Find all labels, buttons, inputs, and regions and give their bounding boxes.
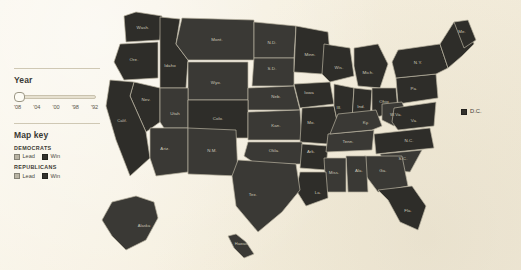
state-label-ill: Ill. xyxy=(337,105,342,110)
state-shape-wisconsin xyxy=(322,44,354,82)
swatch-lead-icon xyxy=(14,173,20,179)
map-key-row-democrats: Lead Win xyxy=(14,154,100,160)
year-tick-1[interactable]: '04 xyxy=(33,105,40,111)
state-label-nev: Nev. xyxy=(141,97,150,102)
control-panel: Year '08 '04 '00 '98 '92 Map key DEMOCRA… xyxy=(14,68,100,184)
state-label-tex: Tex. xyxy=(249,192,257,197)
state-label-neb: Neb. xyxy=(271,94,281,99)
state-label-idaho: Idaho xyxy=(164,63,176,68)
state-label-me: Me. xyxy=(458,29,466,34)
state-shape-arizona xyxy=(150,128,188,176)
state-label-mich: Mich. xyxy=(363,70,374,75)
map-key-group-republicans: REPUBLICANS Lead Win xyxy=(14,165,100,179)
year-control-title: Year xyxy=(14,76,100,85)
state-label-wash: Wash. xyxy=(137,25,150,30)
map-key-label-democrats-lead: Lead xyxy=(23,154,35,160)
state-label-ore: Ore. xyxy=(130,57,139,62)
state-label-ohio: Ohio xyxy=(379,99,389,104)
year-slider[interactable] xyxy=(14,91,96,103)
map-key-heading-democrats: DEMOCRATS xyxy=(14,146,100,151)
dc-label: D.C. xyxy=(470,109,482,115)
state-shape-alabama xyxy=(346,156,368,192)
dc-swatch-icon xyxy=(461,109,467,115)
state-label-minn: Minn. xyxy=(304,52,315,57)
state-shape-iowa xyxy=(294,82,334,108)
state-label-nm: N.M. xyxy=(207,148,217,153)
map-key-item-republicans-lead[interactable]: Lead xyxy=(14,173,35,179)
state-label-fla: Fla. xyxy=(404,208,412,213)
state-shape-south-dakota xyxy=(252,58,294,86)
state-label-ala: Ala. xyxy=(355,168,363,173)
map-key-group-democrats: DEMOCRATS Lead Win xyxy=(14,146,100,160)
state-label-mo: Mo. xyxy=(307,120,315,125)
state-label-pa: Pa. xyxy=(411,86,418,91)
state-label-va: Va. xyxy=(411,118,418,123)
state-label-mont: Mont. xyxy=(211,37,222,42)
dc-legend-marker[interactable]: D.C. xyxy=(461,109,482,115)
state-label-hawaii: Hawaii xyxy=(235,241,248,246)
us-map-svg[interactable]: Wash.Ore.IdahoMont.Wyo.N.D.S.D.Neb.Minn.… xyxy=(96,0,521,270)
state-label-tenn: Tenn. xyxy=(342,139,353,144)
state-shape-utah xyxy=(160,88,188,128)
state-label-calif: Calif. xyxy=(117,118,127,123)
state-label-miss: Miss. xyxy=(329,170,340,175)
swatch-lead-icon xyxy=(14,154,20,160)
state-label-iowa: Iowa xyxy=(304,90,314,95)
year-tick-3[interactable]: '98 xyxy=(72,105,79,111)
state-label-wyo: Wyo. xyxy=(211,80,221,85)
state-shape-louisiana xyxy=(296,172,328,206)
state-shape-florida xyxy=(378,186,426,230)
state-label-utah: Utah xyxy=(170,111,180,116)
map-key-label-republicans-lead: Lead xyxy=(23,174,35,180)
state-shape-georgia xyxy=(364,156,408,192)
us-map[interactable]: Wash.Ore.IdahoMont.Wyo.N.D.S.D.Neb.Minn.… xyxy=(96,0,521,270)
map-key-title: Map key xyxy=(14,131,100,140)
state-label-okla: Okla. xyxy=(269,148,280,153)
state-label-nd: N.D. xyxy=(267,40,276,45)
state-shape-michigan xyxy=(354,44,388,88)
state-shape-texas xyxy=(232,160,300,232)
map-key-label-republicans-win: Win xyxy=(50,174,60,180)
state-shape-arkansas xyxy=(300,144,328,170)
state-label-wva: W.Va. xyxy=(390,112,402,117)
panel-divider-middle xyxy=(14,123,100,124)
state-label-ny: N.Y. xyxy=(414,60,422,65)
state-label-ind: Ind. xyxy=(357,104,365,109)
panel-divider-top xyxy=(14,68,100,69)
state-label-colo: Colo. xyxy=(213,116,224,121)
state-label-ga: Ga. xyxy=(379,168,386,173)
year-tick-0[interactable]: '08 xyxy=(14,105,21,111)
map-key-heading-republicans: REPUBLICANS xyxy=(14,165,100,170)
state-label-sd: S.D. xyxy=(268,66,277,71)
state-label-ky: Ky. xyxy=(363,120,369,125)
state-label-ariz: Ariz. xyxy=(160,146,169,151)
electoral-map-page: Year '08 '04 '00 '98 '92 Map key DEMOCRA… xyxy=(0,0,521,270)
map-key-item-republicans-win[interactable]: Win xyxy=(42,173,60,179)
state-label-sc: S.C. xyxy=(399,156,408,161)
panel-spacer xyxy=(14,110,100,123)
state-shape-hawaii xyxy=(228,234,254,258)
swatch-win-icon xyxy=(42,173,48,179)
state-label-wis: Wis. xyxy=(335,65,344,70)
map-key-row-republicans: Lead Win xyxy=(14,173,100,179)
state-label-kan: Kan. xyxy=(271,123,280,128)
state-shapes[interactable] xyxy=(102,12,476,258)
state-label-ark: Ark. xyxy=(307,149,315,154)
year-slider-track[interactable] xyxy=(14,95,96,99)
map-key-item-democrats-lead[interactable]: Lead xyxy=(14,154,35,160)
swatch-win-icon xyxy=(42,154,48,160)
state-label-nc: N.C. xyxy=(404,138,413,143)
map-key-item-democrats-win[interactable]: Win xyxy=(42,154,60,160)
state-label-alaska: Alaska xyxy=(138,223,151,228)
state-label-la: La. xyxy=(315,190,321,195)
year-tick-2[interactable]: '00 xyxy=(53,105,60,111)
map-key-label-democrats-win: Win xyxy=(50,154,60,160)
year-slider-thumb[interactable] xyxy=(14,92,25,102)
